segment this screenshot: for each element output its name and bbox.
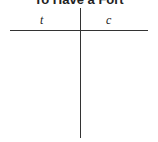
left-column-header: t — [40, 13, 43, 28]
right-column-header: c — [106, 13, 111, 28]
horizontal-divider — [10, 30, 148, 31]
vertical-divider — [80, 8, 81, 138]
diagram-title: To Have a Fort — [0, 0, 158, 7]
